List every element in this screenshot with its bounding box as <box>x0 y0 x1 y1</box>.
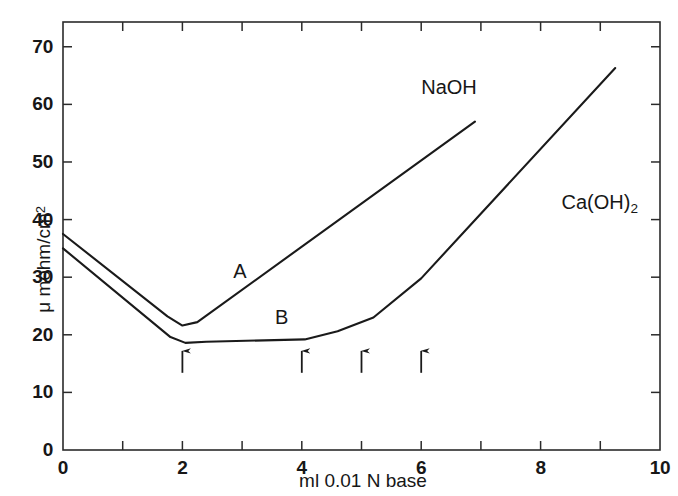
y-tick-label-60: 60 <box>0 93 53 115</box>
series-line-caoh2 <box>63 68 615 343</box>
y-axis-ticks <box>63 47 72 393</box>
plot-frame <box>63 22 660 450</box>
y-axis-ticks-right <box>651 47 660 393</box>
series-line-naoh <box>63 122 475 326</box>
endpoint-arrow-markers <box>182 351 421 373</box>
curve-tag-b: B <box>275 306 288 329</box>
series-label-naoh: NaOH <box>421 76 477 99</box>
y-tick-label-70: 70 <box>0 36 53 58</box>
x-axis-title: ml 0.01 N base <box>299 470 427 492</box>
chart-figure: 010203040506070 0246810 μ mohm/cm2 ml 0.… <box>0 0 678 496</box>
x-tick-label-0: 0 <box>58 457 68 479</box>
y-tick-label-0: 0 <box>0 439 53 461</box>
y-axis-title-text: μ mohm/cm <box>33 213 54 313</box>
series-label-caoh2-text: Ca(OH) <box>561 191 630 213</box>
y-axis-title-superscript: 2 <box>33 206 48 213</box>
x-axis-ticks <box>123 441 601 450</box>
plot-canvas <box>0 0 678 496</box>
series-label-caoh2-subscript: 2 <box>630 201 638 216</box>
x-axis-ticks-top <box>123 22 601 31</box>
series-label-caoh2: Ca(OH)2 <box>561 191 637 216</box>
y-axis-title: μ mohm/cm2 <box>33 149 56 369</box>
x-tick-label-10: 10 <box>650 457 671 479</box>
x-tick-label-8: 8 <box>535 457 545 479</box>
x-tick-label-2: 2 <box>177 457 187 479</box>
y-tick-label-10: 10 <box>0 381 53 403</box>
curve-tag-a: A <box>233 260 246 283</box>
